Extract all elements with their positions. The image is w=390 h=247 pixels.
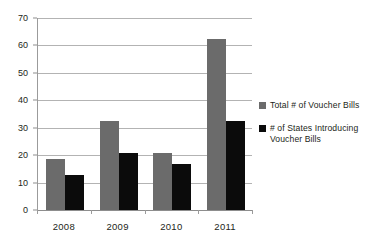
y-axis-tick-label: 70 xyxy=(18,14,28,23)
x-axis-tick-mark xyxy=(198,210,199,214)
bar-2008-series-1 xyxy=(65,175,84,210)
y-axis-tick-label: 50 xyxy=(18,68,28,77)
legend-entry-0[interactable]: Total # of Voucher Bills xyxy=(259,100,387,112)
plot-area xyxy=(37,18,252,210)
legend-label-1: # of States Introducing Voucher Bills xyxy=(270,123,387,146)
legend-swatch-icon-0 xyxy=(259,102,266,109)
x-axis-tick-mark xyxy=(91,210,92,214)
legend-entry-1[interactable]: # of States Introducing Voucher Bills xyxy=(259,123,387,146)
y-axis-tick-label: 0 xyxy=(23,206,28,215)
bar-2009-series-0 xyxy=(100,121,119,210)
y-axis: 010203040506070 xyxy=(0,0,33,247)
y-axis-tick-label: 10 xyxy=(18,178,28,187)
gridline xyxy=(38,18,252,19)
y-axis-tick-label: 60 xyxy=(18,41,28,50)
chart-legend: Total # of Voucher Bills# of States Intr… xyxy=(259,100,387,157)
x-axis-tick-label-2009: 2009 xyxy=(106,222,128,232)
bar-2011-series-1 xyxy=(226,121,245,210)
legend-swatch-icon-1 xyxy=(259,125,266,132)
legend-label-0: Total # of Voucher Bills xyxy=(270,100,387,112)
bar-2010-series-1 xyxy=(172,164,191,210)
bar-2008-series-0 xyxy=(46,159,65,210)
y-axis-tick-label: 40 xyxy=(18,96,28,105)
x-axis-tick-mark xyxy=(37,210,38,214)
bar-2009-series-1 xyxy=(119,153,138,210)
x-axis-tick-mark xyxy=(252,210,253,214)
x-axis-tick-label-2011: 2011 xyxy=(214,222,236,232)
x-axis-tick-label-2010: 2010 xyxy=(160,222,182,232)
x-axis-tick-label-2008: 2008 xyxy=(53,222,75,232)
bar-2011-series-0 xyxy=(207,39,226,210)
y-axis-tick-label: 30 xyxy=(18,123,28,132)
y-axis-tick-label: 20 xyxy=(18,151,28,160)
bar-chart: 010203040506070 Total # of Voucher Bills… xyxy=(0,0,390,247)
x-axis-tick-mark xyxy=(145,210,146,214)
bar-2010-series-0 xyxy=(153,153,172,210)
